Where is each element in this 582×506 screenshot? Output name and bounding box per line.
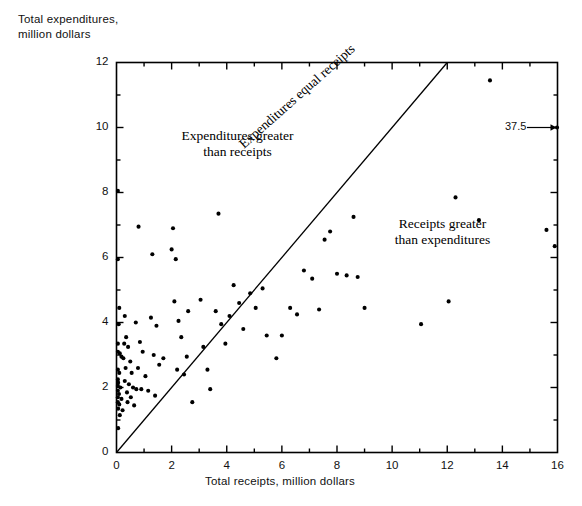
data-point [116,426,120,430]
data-point [175,368,179,372]
data-point [216,212,220,216]
data-point [310,277,314,281]
data-point [248,291,252,295]
data-point [280,333,284,337]
scatter-plot-figure: Total expenditures, million dollars Tota… [0,0,582,506]
data-point [116,189,120,193]
y-tick-label: 10 [69,120,109,132]
data-point [345,273,349,277]
data-point [121,356,125,360]
data-point [172,299,176,303]
data-point [302,268,306,272]
data-point [125,390,129,394]
data-point [186,309,190,313]
x-tick-label: 2 [152,459,192,471]
data-point [122,342,126,346]
data-point [261,286,265,290]
data-point [185,355,189,359]
y-tick-label: 8 [69,185,109,197]
data-point [227,314,231,318]
data-point [265,333,269,337]
data-point [126,345,130,349]
data-point [419,322,423,326]
data-point [128,359,132,363]
data-point [237,301,241,305]
data-point [134,320,138,324]
data-point [127,382,131,386]
data-point [118,385,122,389]
data-point [453,195,457,199]
data-point [125,400,129,404]
y-tick-label: 6 [69,250,109,262]
data-point [132,403,136,407]
x-tick-label: 8 [317,459,357,471]
y-tick-label: 4 [69,315,109,327]
outlier-callout-label: 37.5 [505,120,526,132]
data-point [130,371,134,375]
data-point [116,407,120,411]
data-point [139,387,143,391]
x-tick-label: 16 [538,459,578,471]
data-point [116,395,120,399]
data-point [176,319,180,323]
reference-line [117,63,448,453]
x-tick-label: 14 [482,459,522,471]
data-point [137,225,141,229]
annotation-receipts-greater: Receipts greater than expenditures [355,216,530,248]
data-point [121,408,125,412]
data-point [447,299,451,303]
data-point [118,413,122,417]
data-point [123,379,127,383]
data-point [219,322,223,326]
data-point [124,335,128,339]
data-point [129,395,133,399]
data-point [254,306,258,310]
data-point [143,374,147,378]
data-point [553,244,557,248]
x-tick-label: 4 [207,459,247,471]
data-point [232,283,236,287]
data-point [317,307,321,311]
data-point [134,387,138,391]
data-point [124,366,128,370]
data-point [116,257,120,261]
y-tick-label: 0 [69,445,109,457]
data-point [363,306,367,310]
data-point [153,394,157,398]
data-point [154,324,158,328]
data-point [288,306,292,310]
axis-ticks [117,63,558,453]
data-point [157,363,161,367]
data-point [152,353,156,357]
data-point [190,400,194,404]
data-point [223,342,227,346]
plot-frame [117,63,558,453]
x-tick-label: 12 [427,459,467,471]
data-point [174,257,178,261]
data-point [295,312,299,316]
data-point [116,342,120,346]
data-point [117,306,121,310]
data-point [117,371,121,375]
data-point [179,335,183,339]
data-point [335,272,339,276]
data-point [146,389,150,393]
data-point [328,229,332,233]
data-point [199,298,203,302]
data-point [138,340,142,344]
data-point [214,309,218,313]
data-point [205,368,209,372]
data-point [356,275,360,279]
data-point [208,387,212,391]
y-tick-label: 12 [69,55,109,67]
data-point [488,78,492,82]
data-point [171,226,175,230]
data-point [150,252,154,256]
data-point [123,314,127,318]
data-point [241,327,245,331]
x-tick-label: 10 [372,459,412,471]
annotation-expenditures-greater: Expenditures greater than receipts [150,128,325,160]
x-tick-label: 0 [97,459,137,471]
data-point [117,322,121,326]
data-point [141,350,145,354]
